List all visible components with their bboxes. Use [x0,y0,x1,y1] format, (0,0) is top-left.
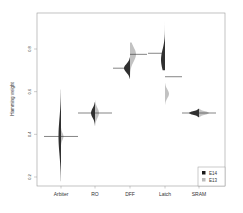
legend: E14 E13 [198,167,225,186]
y-tick-label: 0.8 [27,45,32,51]
legend-swatch-e14 [202,171,206,175]
legend-swatch-e13 [202,178,206,182]
y-tick-label: 0.2 [27,173,32,179]
violin-e13-latch [165,83,169,104]
violin-e14-ro [91,102,95,125]
plot-frame [37,13,225,186]
legend-label-e14: E14 [209,171,218,176]
violin-e13-dff [130,43,136,79]
y-tick-label: 0.4 [27,131,32,137]
x-tick-label: RO [91,191,99,197]
violins [44,19,216,181]
violin-e14-latch [161,19,165,70]
x-tick-label: SRAM [192,191,206,197]
x-tick-label: Latch [159,191,171,197]
y-tick-label: 0.6 [27,88,32,94]
y-axis: 0.20.40.60.8 [27,45,37,179]
legend-label-e13: E13 [209,178,218,183]
violin-e14-arbiter [59,90,62,182]
x-axis: ArbiterRODFFLatchSRAM [54,186,207,197]
y-axis-title: Hamming weight [10,81,15,115]
x-tick-label: DFF [125,191,135,197]
x-tick-label: Arbiter [54,191,69,197]
chart: 0.20.40.60.8 ArbiterRODFFLatchSRAM Hammi… [0,0,243,213]
